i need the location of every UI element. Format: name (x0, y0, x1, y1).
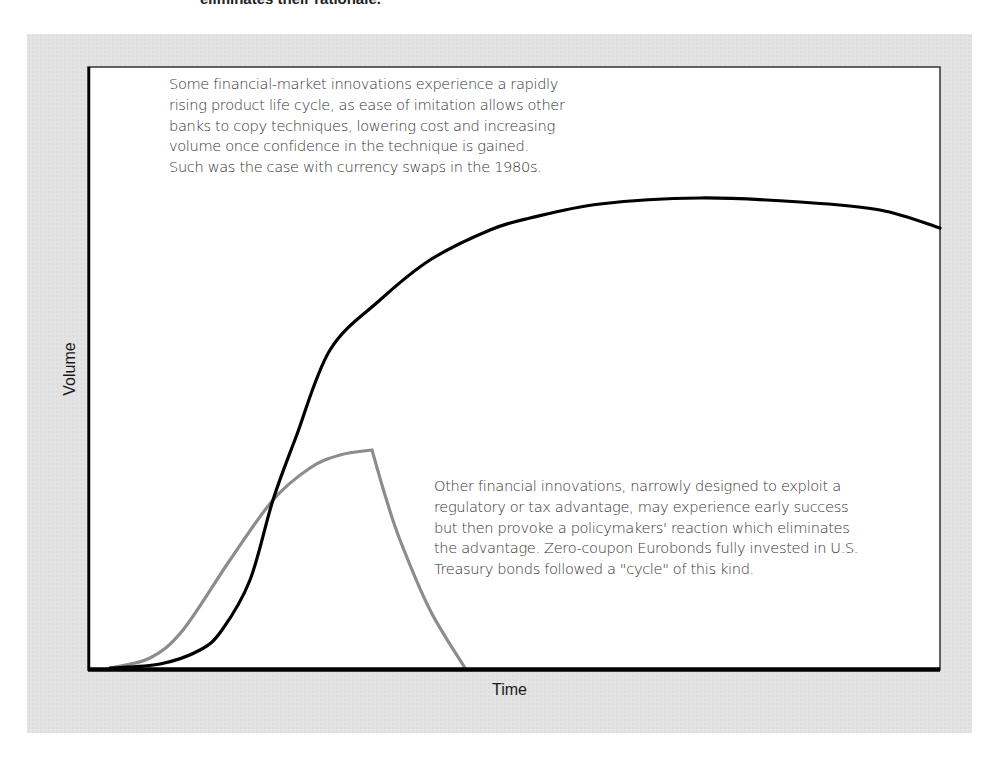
annotation-line: regulatory or tax advantage, may experie… (434, 497, 858, 518)
annotation-line: banks to copy techniques, lowering cost … (169, 116, 565, 137)
annotation-line: but then provoke a policymakers' reactio… (434, 518, 858, 539)
annotation-line: the advantage. Zero-coupon Eurobonds ful… (434, 538, 858, 559)
annotation-line: Some financial-market innovations experi… (169, 74, 565, 95)
x-axis-label: Time (492, 681, 527, 699)
annotation-line: rising product life cycle, as ease of im… (169, 95, 565, 116)
annotation-line: Such was the case with currency swaps in… (169, 157, 565, 178)
annotation-line: volume once confidence in the technique … (169, 136, 565, 157)
annotation-rapid-life-cycle: Some financial-market innovations experi… (169, 74, 565, 178)
annotation-line: Other financial innovations, narrowly de… (434, 476, 858, 497)
annotation-line: Treasury bonds followed a "cycle" of thi… (434, 559, 858, 580)
annotation-regulatory-cycle: Other financial innovations, narrowly de… (434, 476, 858, 580)
y-axis-label: Volume (61, 339, 79, 399)
